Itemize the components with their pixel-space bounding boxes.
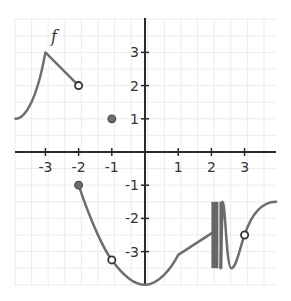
y-tick-label: 2 (130, 78, 139, 94)
oscillation-bar (211, 202, 218, 268)
oscillation-bar (219, 202, 222, 268)
x-tick-label: 2 (207, 159, 216, 175)
y-tick-label: 3 (130, 44, 139, 60)
y-tick-label: -1 (125, 177, 139, 193)
x-tick-label: -3 (38, 159, 52, 175)
open-point-marker (241, 231, 248, 238)
open-point-marker (108, 256, 115, 263)
filled-point-marker (75, 181, 83, 189)
open-point-marker (75, 82, 82, 89)
function-label: f (50, 27, 60, 46)
y-tick-label: -2 (125, 210, 139, 226)
x-tick-label: 1 (174, 159, 183, 175)
oscillation-band (211, 202, 222, 268)
y-tick-label: -3 (125, 244, 139, 260)
x-tick-label: 3 (240, 159, 249, 175)
function-graph: -3-2-1123321-1-2-3 f (0, 0, 291, 301)
x-tick-label: -1 (105, 159, 119, 175)
filled-point-marker (108, 115, 116, 123)
y-tick-label: 1 (130, 111, 139, 127)
x-tick-label: -2 (72, 159, 86, 175)
